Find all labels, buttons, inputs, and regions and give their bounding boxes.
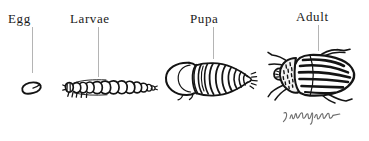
signature-scribble — [282, 108, 346, 126]
stage-label-larvae: Larvae — [70, 12, 110, 25]
figure-egg — [18, 78, 48, 98]
stage-label-egg: Egg — [8, 12, 31, 25]
larva-drawing — [62, 74, 158, 102]
egg-drawing — [18, 78, 48, 98]
leader-line-pupa — [213, 27, 214, 59]
artist-signature — [282, 108, 346, 126]
figure-adult — [266, 48, 362, 106]
stage-label-adult: Adult — [296, 10, 329, 23]
illustration-canvas: Egg Larvae — [0, 0, 369, 141]
adult-beetle-drawing — [266, 48, 362, 106]
figure-larvae — [62, 74, 158, 102]
stage-label-pupa: Pupa — [190, 12, 218, 25]
leader-line-larvae — [98, 27, 99, 77]
leader-line-egg — [32, 27, 33, 73]
figure-pupa — [163, 58, 261, 104]
pupa-drawing — [163, 58, 261, 104]
